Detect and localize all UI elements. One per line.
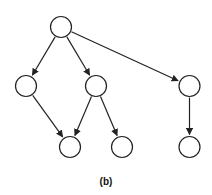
edge-arrow-b-to-e xyxy=(101,97,118,136)
edge-arrow-root-to-a xyxy=(32,37,55,75)
node-a xyxy=(16,76,37,97)
edges-group xyxy=(32,32,189,137)
edge-arrow-root-to-c xyxy=(71,32,178,81)
node-root xyxy=(51,17,72,38)
edge-arrow-b-to-d xyxy=(75,97,92,136)
node-c xyxy=(179,76,200,97)
node-d xyxy=(60,137,81,158)
node-b xyxy=(86,76,107,97)
edge-arrow-root-to-b xyxy=(67,37,90,75)
node-e xyxy=(112,137,133,158)
figure-caption: (b) xyxy=(0,176,212,187)
nodes-group xyxy=(16,17,201,158)
tree-diagram xyxy=(0,0,212,195)
edge-arrow-a-to-d xyxy=(33,95,63,137)
node-f xyxy=(179,137,200,158)
